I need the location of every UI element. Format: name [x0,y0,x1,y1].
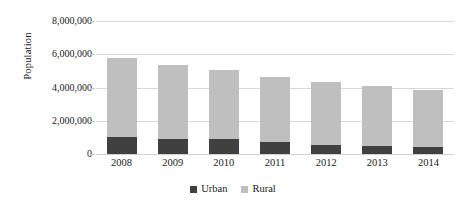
x-tick-label-2009: 2009 [148,157,198,168]
bar-series-container [96,21,454,154]
y-tick-mark [90,88,95,89]
y-tick-mark [90,121,95,122]
bar-segment-rural-2010 [209,70,239,139]
bar-segment-rural-2013 [362,86,392,146]
bar-segment-urban-2012 [311,145,341,154]
legend-item-rural[interactable]: Rural [241,184,275,195]
bar-segment-urban-2010 [209,139,239,154]
y-tick-label: 2,000,000 [0,116,92,126]
bar-group-2014 [413,21,443,154]
bar-group-2012 [311,21,341,154]
bar-segment-rural-2009 [158,65,188,138]
y-tick-mark [90,54,95,55]
x-tick-label-2014: 2014 [403,157,453,168]
plot-area [96,21,454,154]
y-tick-mark [90,154,95,155]
legend-label-urban: Urban [201,184,227,195]
x-tick-label-2013: 2013 [352,157,402,168]
chart-legend: UrbanRural [0,181,466,197]
legend-label-rural: Rural [252,184,275,195]
bar-group-2013 [362,21,392,154]
bar-segment-rural-2014 [413,90,443,147]
y-tick-label: 4,000,000 [0,83,92,93]
bar-segment-rural-2011 [260,77,290,142]
y-tick-mark [90,21,95,22]
legend-swatch-rural-icon [241,186,248,193]
bar-group-2009 [158,21,188,154]
bar-segment-rural-2008 [107,58,137,136]
bar-segment-urban-2008 [107,137,137,154]
bar-segment-urban-2009 [158,139,188,154]
legend-swatch-urban-icon [190,186,197,193]
legend-item-urban[interactable]: Urban [190,184,227,195]
gridline-0 [96,154,454,155]
x-tick-label-2008: 2008 [97,157,147,168]
x-tick-label-2010: 2010 [199,157,249,168]
bar-group-2010 [209,21,239,154]
bar-group-2011 [260,21,290,154]
bar-segment-urban-2011 [260,142,290,154]
bar-segment-rural-2012 [311,82,341,145]
bar-segment-urban-2014 [413,147,443,154]
bar-segment-urban-2013 [362,146,392,154]
y-tick-label: 6,000,000 [0,49,92,59]
x-axis-tick-labels: 2008200920102011201220132014 [96,157,454,173]
population-stacked-bar-chart: Population 02,000,0004,000,0006,000,0008… [0,0,466,205]
y-axis-tick-labels: 02,000,0004,000,0006,000,0008,000,000 [0,0,92,205]
y-tick-label: 0 [0,149,92,159]
x-tick-label-2011: 2011 [250,157,300,168]
y-tick-label: 8,000,000 [0,16,92,26]
bar-group-2008 [107,21,137,154]
x-tick-label-2012: 2012 [301,157,351,168]
